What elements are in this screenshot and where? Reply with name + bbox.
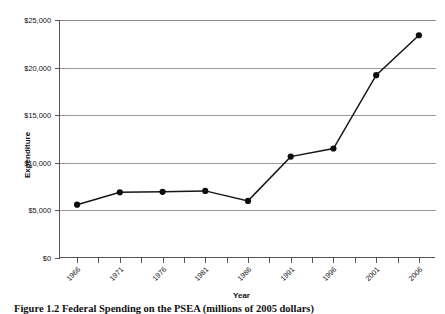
x-axis-tick [312, 258, 313, 263]
x-axis-tick-label: 1981 [193, 265, 211, 283]
x-axis-tick-label: 1971 [107, 265, 125, 283]
x-axis-tick-label: 2006 [406, 265, 424, 283]
y-axis-tick-label: $10,000 [24, 158, 58, 167]
x-axis-title: Year [0, 291, 445, 300]
x-axis-title-text: Year [233, 291, 250, 300]
y-axis-title: Expenditure [23, 132, 32, 178]
x-axis-tick [227, 258, 228, 263]
x-axis-tick [120, 258, 121, 263]
data-point [416, 32, 422, 38]
x-axis-tick [291, 258, 292, 263]
x-axis-tick-label: 1966 [65, 265, 83, 283]
x-axis-tick-label: 1976 [150, 265, 168, 283]
x-axis-tick [141, 258, 142, 263]
y-axis-tick-label: $20,000 [24, 63, 58, 72]
x-axis-tick [98, 258, 99, 263]
data-point [373, 72, 379, 78]
x-axis-tick [163, 258, 164, 263]
data-point [330, 145, 336, 151]
x-axis-tick-label: 2001 [364, 265, 382, 283]
data-point [117, 189, 123, 195]
y-axis-tick-label: $25,000 [24, 16, 58, 25]
data-point [74, 202, 80, 208]
data-point [245, 198, 251, 204]
x-axis-tick [398, 258, 399, 263]
x-axis-tick [184, 258, 185, 263]
x-axis-tick [355, 258, 356, 263]
y-axis-tick-label: $5,000 [28, 206, 58, 215]
x-axis-tick [269, 258, 270, 263]
figure-caption: Figure 1.2 Federal Spending on the PSEA … [14, 303, 434, 314]
plot-area [59, 20, 435, 258]
x-axis-tick [333, 258, 334, 263]
y-axis-tick-label: $15,000 [24, 111, 58, 120]
series-line [77, 35, 419, 204]
x-axis-tick [419, 258, 420, 263]
x-axis-tick-label: 1986 [236, 265, 254, 283]
data-point [159, 189, 165, 195]
x-axis-tick [77, 258, 78, 263]
x-axis-tick [376, 258, 377, 263]
data-point [202, 188, 208, 194]
y-axis-tick-label: $0 [43, 254, 58, 263]
data-point [288, 154, 294, 160]
x-axis-tick [205, 258, 206, 263]
data-series-line [60, 20, 436, 258]
x-axis-tick [248, 258, 249, 263]
x-axis-tick-label: 1996 [321, 265, 339, 283]
x-axis-tick-label: 1991 [278, 265, 296, 283]
